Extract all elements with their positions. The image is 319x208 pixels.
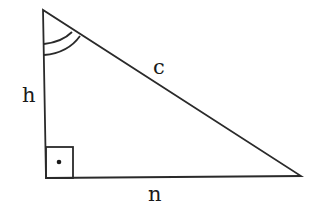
right-angle-dot (57, 160, 62, 165)
right-triangle-diagram: h c n (0, 0, 319, 208)
label-n: n (148, 182, 162, 206)
triangle (43, 10, 301, 178)
angle-arc-inner (44, 32, 72, 44)
label-c: c (153, 55, 165, 79)
label-h: h (22, 83, 36, 107)
